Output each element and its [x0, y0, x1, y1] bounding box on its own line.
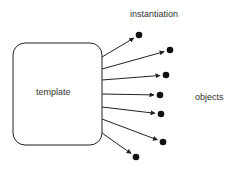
object-dots: [133, 32, 174, 161]
arrow-4: [102, 94, 154, 95]
template-label: template: [36, 87, 71, 97]
arrow-2: [102, 52, 164, 69]
object-dot-7: [133, 154, 140, 161]
instantiation-arrows: [102, 38, 164, 153]
instantiation-label: instantiation: [130, 9, 178, 19]
arrow-7: [102, 133, 131, 154]
diagram-canvas: template instantiation objects: [0, 0, 236, 173]
objects-label: objects: [195, 92, 224, 102]
arrow-1: [102, 38, 134, 57]
object-dot-4: [157, 92, 164, 99]
arrow-5: [102, 107, 155, 113]
object-dot-1: [136, 32, 143, 39]
object-dot-6: [160, 139, 167, 146]
object-dot-3: [163, 72, 170, 79]
arrow-6: [102, 119, 157, 140]
object-dot-2: [167, 47, 174, 54]
arrow-3: [102, 75, 160, 80]
object-dot-5: [158, 111, 165, 118]
